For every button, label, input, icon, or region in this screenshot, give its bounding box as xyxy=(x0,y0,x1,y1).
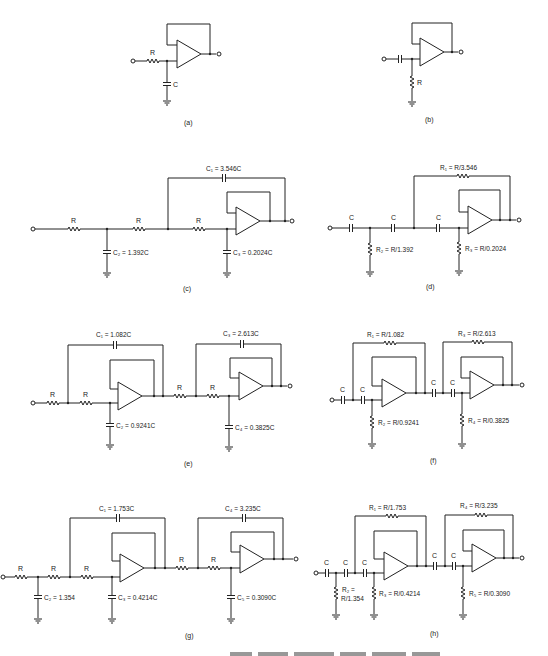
label-C: C xyxy=(432,552,437,559)
resistor-icon xyxy=(334,585,338,601)
opamp-icon xyxy=(236,207,260,235)
output-terminal xyxy=(517,218,521,222)
label-R3: R xyxy=(196,217,201,224)
capacitor-icon xyxy=(350,224,353,232)
label-C: C xyxy=(451,552,456,559)
ground-icon xyxy=(459,615,467,619)
circuit-f: C C R₁ = R/1.082 C C R₃ = R/2.613 R₂ = R… xyxy=(330,330,524,465)
label-C4: C₄ = 3.235C xyxy=(225,505,261,512)
panel-label-a: (a) xyxy=(184,119,193,127)
filter-circuits-figure: R C (a) R (b) R R xyxy=(0,0,548,656)
label-C: C xyxy=(349,214,354,221)
capacitor-icon xyxy=(114,341,117,349)
capacitor-icon xyxy=(223,251,231,254)
ground-icon xyxy=(455,271,463,275)
label-R: R xyxy=(51,565,56,572)
output-terminal xyxy=(217,52,221,56)
resistor-icon xyxy=(45,401,61,405)
capacitor-icon xyxy=(433,389,436,397)
resistor-icon xyxy=(191,227,207,231)
resistor-icon xyxy=(382,341,398,345)
resistor-icon xyxy=(206,566,222,570)
resistor-icon xyxy=(461,585,465,601)
label-C: C xyxy=(431,379,436,386)
label-C: C xyxy=(340,386,345,393)
opamp-icon xyxy=(468,206,492,234)
circuit-a: R C (a) xyxy=(131,24,221,127)
ground-icon xyxy=(34,619,42,623)
panel-label-d: (d) xyxy=(426,283,435,291)
opamp-icon xyxy=(240,545,264,573)
panel-label-e: (e) xyxy=(184,460,193,468)
opamp-icon xyxy=(470,371,494,399)
resistor-icon xyxy=(172,394,188,398)
output-terminal xyxy=(290,219,294,223)
output-terminal xyxy=(520,383,524,387)
resistor-icon xyxy=(131,227,147,231)
circuit-b: R (b) xyxy=(382,23,463,124)
label-C: C xyxy=(436,214,441,221)
input-terminal xyxy=(328,226,332,230)
resistor-icon xyxy=(368,241,372,257)
capacitor-icon xyxy=(434,562,437,570)
capacitor-icon xyxy=(225,426,233,429)
label-R2: R₂ = R/0.9241 xyxy=(378,419,419,426)
capacitor-icon xyxy=(392,224,395,232)
label-R2: R₂ = R/1.392 xyxy=(376,246,414,253)
capacitor-icon xyxy=(223,174,226,182)
resistor-icon xyxy=(46,575,62,579)
resistor-icon xyxy=(66,227,82,231)
ground-icon xyxy=(103,273,111,277)
opamp-icon xyxy=(118,382,142,410)
label-R: R xyxy=(150,49,155,56)
label-R: R xyxy=(211,556,216,563)
label-C3: C₃ = 0.4214C xyxy=(118,594,158,601)
capacitor-icon xyxy=(106,424,114,427)
capacitor-icon xyxy=(108,596,116,599)
panel-label-c: (c) xyxy=(183,285,191,293)
capacitor-icon xyxy=(342,396,345,404)
opamp-icon xyxy=(472,544,496,572)
capacitor-icon xyxy=(399,55,402,63)
resistor-icon xyxy=(145,59,161,63)
label-R5: R₅ = R/0.3090 xyxy=(469,590,510,597)
opamp-icon xyxy=(177,40,201,68)
resistor-icon xyxy=(460,412,464,428)
label-C1: C₁ = 1.753C xyxy=(99,505,135,512)
label-R4: R₄ = R/3.235 xyxy=(460,502,498,509)
resistor-icon xyxy=(470,340,486,344)
ground-icon xyxy=(163,101,171,105)
label-R: R xyxy=(18,565,23,572)
resistor-icon xyxy=(410,74,414,90)
panel-label-g: (g) xyxy=(185,632,194,640)
capacitor-icon xyxy=(34,596,42,599)
label-R: R xyxy=(50,391,55,398)
label-C: C xyxy=(391,214,396,221)
output-terminal xyxy=(459,50,463,54)
ground-icon xyxy=(368,444,376,448)
label-C1: C₁ = 3.546C xyxy=(206,165,242,172)
label-C: C xyxy=(362,559,367,566)
capacitor-icon xyxy=(326,569,329,577)
capacitor-icon xyxy=(345,569,348,577)
ground-icon xyxy=(106,445,114,449)
label-R2-value: R/1.354 xyxy=(341,595,364,602)
resistor-icon xyxy=(473,513,489,517)
label-R: R xyxy=(179,556,184,563)
resistor-icon xyxy=(384,514,400,518)
capacitor-icon xyxy=(163,83,171,86)
output-terminal xyxy=(288,384,292,388)
label-C3: C₃ = 0.2024C xyxy=(233,249,273,256)
capacitor-icon xyxy=(453,562,456,570)
label-R1: R₁ = R/1.082 xyxy=(367,331,404,338)
output-terminal xyxy=(294,557,298,561)
capacitor-icon xyxy=(103,251,111,254)
ground-icon xyxy=(227,619,235,623)
label-C2: C₂ = 1.392C xyxy=(113,249,149,256)
opamp-icon xyxy=(239,372,263,400)
label-R1: R₁ = R/3.546 xyxy=(440,164,477,171)
capacitor-icon xyxy=(437,224,440,232)
input-terminal xyxy=(31,401,35,405)
circuit-c: R R R C₁ = 3.546C C₂ = 1.392C C₃ = 0.202… xyxy=(31,165,294,293)
opamp-icon xyxy=(384,552,408,580)
